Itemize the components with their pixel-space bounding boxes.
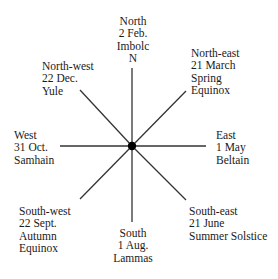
west-festival: Samhain — [14, 154, 54, 166]
south-date: 1 Aug. — [108, 239, 158, 251]
label-south-west: South-west 22 Sept. Autumn Equinox — [19, 205, 71, 255]
spoke-north-east — [132, 91, 186, 146]
east-festival: Beltain — [216, 154, 249, 166]
north-festival: Imbolc — [113, 40, 153, 52]
spoke-south-west — [80, 146, 132, 199]
south-west-direction: South-west — [19, 205, 71, 217]
spoke-north-west — [80, 90, 132, 146]
south-festival: Lammas — [108, 252, 158, 264]
north-west-date: 22 Dec. — [42, 72, 94, 84]
south-east-festival: Summer Solstice — [189, 230, 267, 242]
north-east-festival-1: Spring — [191, 72, 240, 84]
north-east-direction: North-east — [191, 47, 240, 59]
west-date: 31 Oct. — [14, 141, 54, 153]
south-direction: South — [108, 227, 158, 239]
label-east: East 1 May Beltain — [216, 129, 249, 166]
north-west-festival: Yule — [42, 85, 94, 97]
label-north-east: North-east 21 March Spring Equinox — [191, 47, 240, 97]
label-south: South 1 Aug. Lammas — [108, 227, 158, 264]
south-west-festival-2: Equinox — [19, 242, 71, 254]
east-direction: East — [216, 129, 249, 141]
center-hub — [128, 142, 136, 150]
south-east-date: 21 June — [189, 217, 267, 229]
south-west-date: 22 Sept. — [19, 217, 71, 229]
label-south-east: South-east 21 June Summer Solstice — [189, 205, 267, 242]
east-date: 1 May — [216, 141, 249, 153]
west-direction: West — [14, 129, 54, 141]
north-east-festival-2: Equinox — [191, 84, 240, 96]
north-marker: N — [113, 52, 153, 64]
label-north: North 2 Feb. Imbolc N — [113, 15, 153, 65]
north-direction: North — [113, 15, 153, 27]
label-west: West 31 Oct. Samhain — [14, 129, 54, 166]
north-west-direction: North-west — [42, 60, 94, 72]
label-north-west: North-west 22 Dec. Yule — [42, 60, 94, 97]
north-date: 2 Feb. — [113, 27, 153, 39]
south-west-festival-1: Autumn — [19, 230, 71, 242]
spoke-south-east — [132, 146, 186, 200]
north-east-date: 21 March — [191, 59, 240, 71]
south-east-direction: South-east — [189, 205, 267, 217]
